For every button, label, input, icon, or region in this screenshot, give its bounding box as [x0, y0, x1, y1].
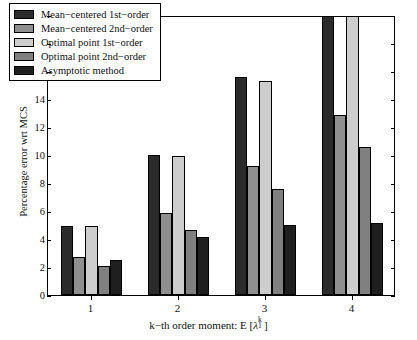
y-tick-label: 2	[23, 263, 45, 273]
y-tick-mark	[391, 16, 395, 17]
legend-color-swatch	[14, 38, 34, 47]
y-tick-mark	[391, 44, 395, 45]
x-tick-mark	[91, 296, 92, 300]
y-tick-mark	[391, 268, 395, 269]
figure-canvas: 02468101214161820 Percentage error wrt M…	[0, 0, 417, 340]
y-tick-mark	[47, 16, 51, 17]
bar	[334, 115, 346, 295]
y-tick-mark	[391, 212, 395, 213]
y-tick-mark	[391, 184, 395, 185]
y-tick-mark	[47, 72, 51, 73]
bar	[272, 189, 284, 295]
y-axis-label: Percentage error wrt MCS	[18, 82, 29, 242]
x-tick-label: 2	[163, 302, 193, 314]
legend-item: Mean−centered 1st−order	[14, 7, 153, 21]
y-tick-mark	[47, 156, 51, 157]
bar	[247, 166, 259, 296]
y-tick-mark	[391, 128, 395, 129]
subscript-1: 1	[258, 321, 262, 330]
legend-color-swatch	[14, 24, 34, 33]
bar	[359, 147, 371, 295]
x-tick-label: 1	[76, 302, 106, 314]
bar	[346, 16, 358, 295]
legend-color-swatch	[14, 10, 34, 19]
y-tick-mark	[47, 184, 51, 185]
legend-color-swatch	[14, 52, 34, 61]
bar	[110, 260, 122, 295]
bar	[172, 156, 184, 295]
bar	[322, 16, 334, 295]
bar	[148, 155, 160, 295]
y-tick-mark	[47, 212, 51, 213]
bar	[235, 77, 247, 295]
y-tick-mark	[391, 156, 395, 157]
bar	[284, 225, 296, 295]
x-tick-label: 3	[250, 302, 280, 314]
y-tick-mark	[391, 240, 395, 241]
bar	[85, 226, 97, 295]
y-tick-mark	[47, 268, 51, 269]
bar	[371, 223, 383, 295]
x-tick-mark	[265, 296, 266, 300]
bar	[259, 81, 271, 295]
x-axis-label: k−th order moment: E [λk1]	[0, 318, 417, 331]
bar	[160, 213, 172, 295]
bar	[61, 226, 73, 295]
y-tick-mark	[47, 128, 51, 129]
y-tick-mark	[47, 296, 51, 297]
legend-item: Optimal point 2nd−order	[14, 49, 153, 63]
y-tick-label: 0	[23, 291, 45, 301]
y-tick-mark	[47, 100, 51, 101]
bar	[73, 257, 85, 295]
bar	[185, 230, 197, 295]
x-tick-mark	[352, 296, 353, 300]
bar	[98, 266, 110, 295]
legend-label: Optimal point 1st−order	[41, 37, 143, 48]
legend-label: Optimal point 2nd−order	[41, 51, 146, 62]
legend-item: Asymptotic method	[14, 63, 153, 77]
bar	[197, 237, 209, 295]
y-tick-mark	[47, 44, 51, 45]
legend: Mean−centered 1st−orderMean−centered 2nd…	[9, 3, 161, 81]
y-tick-mark	[391, 100, 395, 101]
y-tick-mark	[391, 296, 395, 297]
legend-item: Mean−centered 2nd−order	[14, 21, 153, 35]
y-tick-mark	[47, 240, 51, 241]
legend-label: Mean−centered 1st−order	[41, 9, 149, 20]
x-tick-label: 4	[337, 302, 367, 314]
lambda-indices: k1	[258, 318, 264, 329]
legend-item: Optimal point 1st−order	[14, 35, 153, 49]
legend-label: Mean−centered 2nd−order	[41, 23, 153, 34]
x-tick-mark	[178, 296, 179, 300]
legend-color-swatch	[14, 66, 34, 75]
y-tick-mark	[391, 72, 395, 73]
legend-label: Asymptotic method	[41, 65, 124, 76]
